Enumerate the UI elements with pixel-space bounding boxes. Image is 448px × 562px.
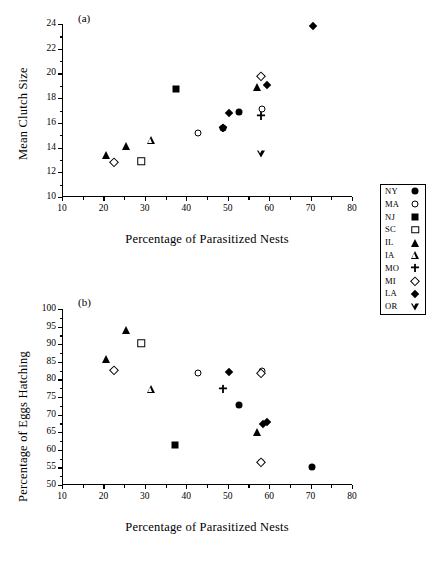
legend-item-or: OR — [381, 300, 425, 313]
panel-a: (a) Mean Clutch Size Percentage of Paras… — [0, 0, 370, 270]
figure-root: (a) Mean Clutch Size Percentage of Paras… — [0, 0, 448, 562]
x-tick — [103, 485, 104, 489]
x-tick-label: 30 — [140, 204, 150, 214]
series-mi-diamond-open-marker — [257, 71, 266, 80]
legend-mi-diamond-open-marker — [410, 276, 419, 285]
series-ny-circle-filled-marker — [236, 108, 243, 115]
y-tick — [58, 49, 62, 50]
series-ia-tri-open-marker — [147, 385, 155, 393]
x-tick — [228, 197, 229, 201]
x-minor-tick — [331, 485, 332, 488]
x-tick-label: 20 — [99, 204, 109, 214]
x-minor-tick — [207, 485, 208, 488]
x-minor-tick — [248, 485, 249, 488]
panel-a-x-axis-title: Percentage of Parasitized Nests — [125, 232, 288, 247]
legend-item-il: IL — [381, 236, 425, 249]
y-tick-label: 60 — [24, 445, 56, 455]
legend-item-symbol — [407, 288, 423, 300]
legend-la-diamond-filled-marker — [411, 290, 419, 298]
x-tick — [186, 485, 187, 489]
legend-item-symbol — [407, 262, 423, 274]
y-tick — [58, 432, 62, 433]
y-tick — [58, 379, 62, 380]
series-la-diamond-filled-marker — [263, 80, 271, 88]
legend-item-mo: MO — [381, 262, 425, 275]
series-il-tri-filled-marker — [102, 355, 110, 363]
y-minor-tick — [60, 335, 63, 336]
y-minor-tick — [60, 459, 63, 460]
x-tick-label: 70 — [306, 492, 316, 502]
series-mi-diamond-open-marker — [110, 158, 119, 167]
x-tick-label: 40 — [182, 204, 192, 214]
legend-item-sc: SC — [381, 223, 425, 236]
y-tick — [58, 123, 62, 124]
series-mo-plus-filled-marker — [219, 384, 228, 393]
x-tick-label: 50 — [223, 492, 233, 502]
legend-nj-square-filled-marker — [412, 213, 419, 220]
x-minor-tick — [331, 197, 332, 200]
x-tick-label: 80 — [347, 204, 357, 214]
x-tick — [311, 485, 312, 489]
x-tick — [62, 485, 63, 489]
legend-il-tri-filled-marker — [411, 239, 419, 247]
series-il-tri-filled-marker — [122, 326, 130, 334]
series-ny-circle-filled-marker — [309, 464, 316, 471]
series-il-tri-filled-marker — [122, 142, 130, 150]
legend-item-label: MO — [385, 264, 407, 273]
y-tick-label: 24 — [24, 19, 56, 29]
y-tick-label: 85 — [24, 357, 56, 367]
series-la-diamond-filled-marker — [225, 109, 233, 117]
x-tick — [103, 197, 104, 201]
legend-item-symbol — [407, 185, 423, 197]
y-tick — [58, 415, 62, 416]
legend-item-ma: MA — [381, 198, 425, 211]
series-ma-circle-open-marker — [194, 129, 201, 136]
y-minor-tick — [60, 36, 63, 37]
x-minor-tick — [83, 197, 84, 200]
series-mo-plus-filled-marker — [257, 112, 266, 121]
legend-item-mi: MI — [381, 275, 425, 288]
legend-item-label: MI — [385, 277, 407, 286]
y-tick-label: 100 — [24, 304, 56, 314]
y-tick — [58, 73, 62, 74]
x-tick — [352, 197, 353, 201]
y-minor-tick — [60, 135, 63, 136]
panel-b: (b) Percentage of Eggs Hatching Percenta… — [0, 270, 370, 562]
series-il-tri-filled-marker — [253, 428, 261, 436]
y-tick — [58, 98, 62, 99]
x-minor-tick — [83, 485, 84, 488]
legend-ny-circle-filled-marker — [412, 188, 419, 195]
x-minor-tick — [166, 485, 167, 488]
y-minor-tick — [60, 353, 63, 354]
y-tick-label: 12 — [24, 168, 56, 178]
series-la-diamond-filled-marker — [225, 367, 233, 375]
y-tick-label: 65 — [24, 427, 56, 437]
y-tick-label: 14 — [24, 143, 56, 153]
y-minor-tick — [60, 318, 63, 319]
y-tick — [58, 450, 62, 451]
y-minor-tick — [60, 388, 63, 389]
series-mo-plus-filled-marker — [218, 124, 227, 133]
legend-item-symbol — [407, 237, 423, 249]
x-tick — [269, 485, 270, 489]
x-tick-label: 50 — [223, 204, 233, 214]
x-minor-tick — [290, 197, 291, 200]
y-minor-tick — [60, 476, 63, 477]
y-tick-label: 80 — [24, 375, 56, 385]
x-minor-tick — [124, 197, 125, 200]
y-tick — [58, 327, 62, 328]
legend-item-symbol — [407, 249, 423, 261]
legend-item-label: OR — [385, 302, 407, 311]
legend-item-nj: NJ — [381, 211, 425, 224]
y-minor-tick — [60, 86, 63, 87]
series-or-tridown-open-marker — [257, 150, 265, 157]
y-tick-label: 22 — [24, 44, 56, 54]
y-tick — [58, 362, 62, 363]
y-minor-tick — [60, 371, 63, 372]
y-tick-label: 50 — [24, 480, 56, 490]
legend-mo-plus-filled-marker — [411, 264, 420, 273]
legend-ia-tri-open-marker — [411, 251, 419, 259]
legend-item-label: IL — [385, 238, 407, 247]
series-nj-square-filled-marker — [172, 85, 179, 92]
y-minor-tick — [60, 61, 63, 62]
